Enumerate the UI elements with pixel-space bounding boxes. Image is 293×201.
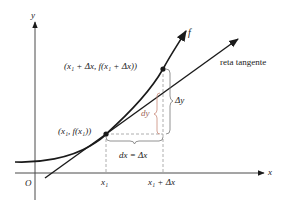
dy-brace-label: dy — [141, 109, 150, 118]
curve-f-label: f — [188, 28, 191, 38]
delta-y-brace-label: Δy — [175, 96, 184, 105]
diagram-canvas: y x O f reta tangente (x₁ + Δx, f(x₁ + Δ… — [0, 0, 293, 201]
y-axis-label: y — [31, 11, 35, 20]
origin-label: O — [25, 179, 32, 188]
curve-f — [15, 31, 186, 162]
delta-y-brace — [166, 69, 173, 134]
point-x1-plus-dx — [160, 66, 165, 71]
dx-brace — [106, 137, 163, 144]
dx-brace-label: dx = Δx — [119, 151, 147, 160]
point-x1-plus-dx-label: (x₁ + Δx, f(x₁ + Δx)) — [64, 62, 137, 71]
x-axis-label: x — [268, 168, 272, 177]
tangent-line-label: reta tangente — [220, 58, 266, 67]
point-x1-label: (x₁, f(x₁)) — [58, 127, 91, 136]
diagram-svg — [0, 0, 293, 201]
tick-x1-label: x₁ — [101, 178, 108, 187]
point-x1 — [103, 131, 108, 136]
tick-x1-plus-dx-label: x₁ + Δx — [148, 178, 175, 187]
